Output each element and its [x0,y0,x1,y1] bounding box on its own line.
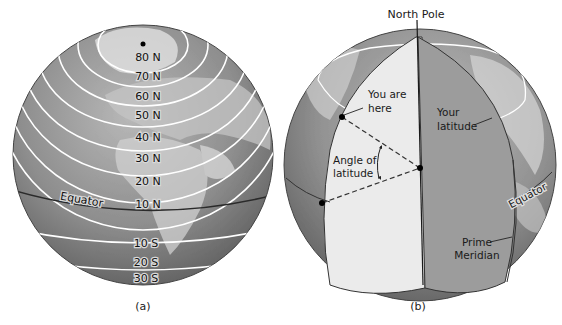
latitude-diagram: 80 N 70 N 60 N 50 N 40 N 30 N 20 N 10 N … [0,0,562,325]
your-latitude-label-line2: latitude [437,120,477,132]
lat-label-10s: 10 S [134,237,158,250]
lat-label-70n: 70 N [135,70,161,83]
prime-meridian-label-line2: Meridian [454,249,499,261]
earth-center-point [417,165,423,171]
lat-label-60n: 60 N [135,90,161,103]
lat-label-80n: 80 N [135,51,161,64]
lat-label-50n: 50 N [135,109,161,122]
lat-label-10n: 10 N [135,198,161,211]
prime-meridian-label-line1: Prime [462,236,492,248]
lat-label-20s: 20 S [134,256,158,269]
your-latitude-label-line1: Your [436,106,460,118]
north-pole-label: North Pole [387,8,444,21]
lat-label-30n: 30 N [135,152,161,165]
north-pole-dot [141,42,146,47]
angle-of-latitude-label-line2: latitude [333,167,373,179]
caption-a: (a) [135,300,150,313]
lat-label-40n: 40 N [135,131,161,144]
lat-label-30s: 30 S [134,272,158,285]
equator-point [319,200,325,206]
you-are-here-label-line1: You are [367,88,406,100]
you-are-here-label-line2: here [368,102,392,114]
globe-a: 80 N 70 N 60 N 50 N 40 N 30 N 20 N 10 N … [0,0,288,288]
globe-b [284,20,556,301]
caption-b: (b) [410,300,426,313]
lat-label-20n: 20 N [135,175,161,188]
angle-of-latitude-label-line1: Angle of [333,154,377,166]
